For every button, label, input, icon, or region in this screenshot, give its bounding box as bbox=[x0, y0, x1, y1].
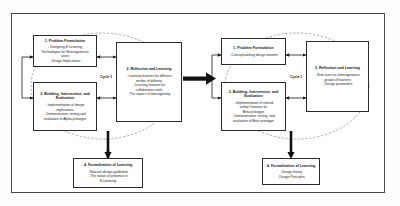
stage-line: - Design Principles bbox=[277, 175, 304, 180]
stage-building-intervention-evaluation-right[interactable]: 3. Building, Intervention, and Evaluatio… bbox=[221, 82, 286, 131]
stage-line: evaluation of Alpha prototype bbox=[44, 117, 87, 122]
stage-line: - Design Implications bbox=[50, 59, 81, 64]
stage-title: 4. Formalization of Learning bbox=[267, 164, 315, 168]
stage-reflection-learning-left[interactable]: 2. Reflection and Learning - Learning fe… bbox=[116, 42, 182, 122]
stage-formalization-learning-left[interactable]: 4. Formalization of Learning - Nascent d… bbox=[73, 158, 143, 188]
stage-problem-formulation-right[interactable]: 1. Problem Formulation - Conceptualizing… bbox=[221, 38, 286, 65]
cycle-left-label: Cycle 1 bbox=[100, 75, 112, 79]
stage-title: 3. Building, Intervention, and Evaluatio… bbox=[224, 90, 283, 99]
diagram-canvas: 1. Problem Formulation - Designing E-Lea… bbox=[0, 0, 400, 206]
stage-line: - Conceptualizing design maxims bbox=[229, 53, 277, 58]
stage-title: 3. Building, Intervention, and Evaluatio… bbox=[36, 92, 94, 101]
stage-problem-formulation-left[interactable]: 1. Problem Formulation - Designing E-Lea… bbox=[33, 35, 97, 67]
stage-line: evaluation of Beta prototype bbox=[233, 119, 274, 124]
stage-line: - The aspect of heterogeneity bbox=[128, 92, 171, 97]
stage-building-intervention-evaluation-left[interactable]: 3. Building, Intervention, and Evaluatio… bbox=[33, 82, 97, 131]
stage-line: E-Learning bbox=[100, 179, 116, 184]
stage-title: 1. Problem Formulation bbox=[233, 46, 273, 50]
stage-title: 4. Formalization of Learning bbox=[84, 163, 132, 167]
stage-reflection-learning-right[interactable]: 2. Reflection and Learning - End-users a… bbox=[306, 41, 369, 112]
stage-title: 2. Reflection and Learning bbox=[126, 67, 171, 71]
stage-formalization-learning-right[interactable]: 4. Formalization of Learning - Design th… bbox=[262, 158, 320, 185]
stage-title: 1. Problem Formulation bbox=[45, 39, 85, 43]
stage-line: - Design parameters bbox=[323, 82, 353, 87]
cycle-right-label: Cycle 1 bbox=[290, 75, 302, 79]
stage-title: 2. Reflection and Learning bbox=[315, 66, 360, 70]
